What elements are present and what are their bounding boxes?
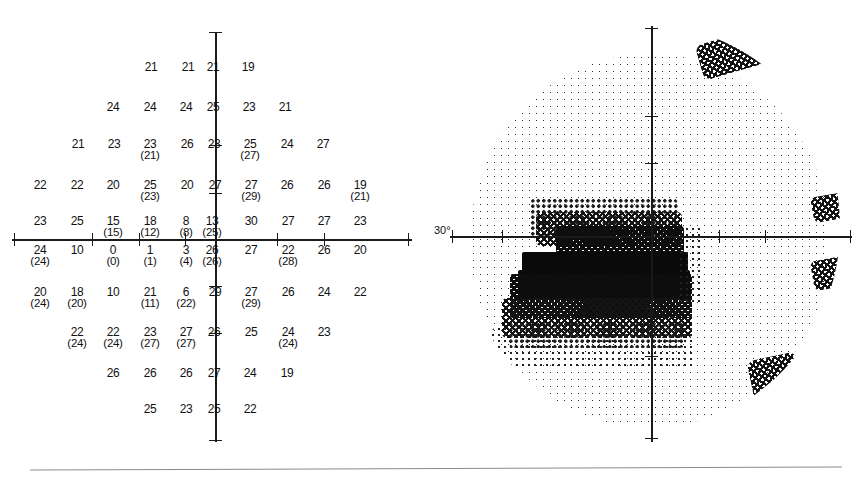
axis-tick [408, 233, 409, 246]
footer-divider [30, 466, 842, 470]
threshold-cell: 23 [339, 216, 381, 227]
threshold-cell: 20 [92, 180, 134, 191]
axis-tick [209, 440, 222, 441]
threshold-value: 27 [302, 139, 344, 150]
threshold-value: 21 [130, 62, 172, 73]
threshold-value: 21 [264, 102, 306, 113]
threshold-cell: 21 [130, 62, 172, 73]
threshold-value: 26 [193, 327, 235, 338]
grayscale-patch [695, 26, 784, 81]
retest-value: (20) [56, 298, 98, 309]
grayscale-patch [490, 326, 696, 368]
retest-value: (26) [191, 256, 233, 267]
grayscale-patch [746, 351, 803, 401]
threshold-cell: 23 [19, 216, 61, 227]
grayscale-vertical-axis [651, 26, 653, 442]
axis-tick [452, 230, 453, 243]
threshold-cell: 22 [229, 404, 271, 415]
threshold-cell: 24 [92, 102, 134, 113]
threshold-value: 25 [230, 327, 272, 338]
axis-tick [719, 230, 720, 243]
axis-tick [765, 230, 766, 243]
retest-value: (24) [92, 338, 134, 349]
threshold-cell: 19 [266, 368, 308, 379]
threshold-value: 24 [92, 102, 134, 113]
retest-value: (21) [339, 191, 381, 202]
threshold-cell: 27 [230, 245, 272, 256]
threshold-value: 22 [339, 287, 381, 298]
threshold-value: 20 [92, 180, 134, 191]
threshold-cell: 22 [19, 180, 61, 191]
threshold-value: 19 [266, 368, 308, 379]
threshold-value: 20 [339, 245, 381, 256]
threshold-cell: 25 [230, 327, 272, 338]
threshold-cell: 24(24) [19, 245, 61, 267]
retest-value: (24) [19, 298, 61, 309]
retest-value: (24) [19, 256, 61, 267]
axis-tick [209, 193, 222, 194]
threshold-cell: 22(24) [92, 327, 134, 349]
threshold-cell: 27(29) [230, 287, 272, 309]
degree-axis-label: 30° [434, 224, 451, 236]
retest-value: (29) [230, 191, 272, 202]
threshold-cell: 23(21) [129, 139, 171, 161]
axis-tick [645, 116, 658, 117]
axis-tick [502, 230, 503, 243]
threshold-value: 10 [92, 287, 134, 298]
axis-tick [645, 438, 658, 439]
threshold-value: 30 [230, 216, 272, 227]
axis-tick [14, 233, 15, 246]
threshold-cell: 19 [227, 62, 269, 73]
threshold-cell: 30 [230, 216, 272, 227]
grayscale-deviation-map: 30° [432, 8, 868, 452]
threshold-cell: 13(25) [191, 216, 233, 238]
threshold-cell: 26(26) [191, 245, 233, 267]
grayscale-field-disc [460, 26, 840, 428]
threshold-cell: 20(24) [19, 287, 61, 309]
grayscale-patch [810, 255, 840, 291]
retest-value: (29) [230, 298, 272, 309]
threshold-value: 26 [92, 368, 134, 379]
threshold-value: 23 [339, 216, 381, 227]
threshold-value: 23 [19, 216, 61, 227]
threshold-value: 24 [229, 368, 271, 379]
axis-tick [645, 308, 658, 309]
numeric-threshold-plot: 21212119242424252321212323(21)262325(27)… [0, 0, 430, 450]
axis-tick [548, 230, 549, 243]
threshold-cell: 10 [92, 287, 134, 298]
threshold-cell: 19(21) [339, 180, 381, 202]
threshold-value: 22 [19, 180, 61, 191]
threshold-cell: 26 [193, 327, 235, 338]
threshold-cell: 27 [302, 139, 344, 150]
threshold-value: 26 [266, 180, 308, 191]
axis-tick [850, 230, 851, 243]
retest-value: (25) [191, 227, 233, 238]
retest-value: (27) [229, 150, 271, 161]
threshold-cell: 25(27) [229, 139, 271, 161]
threshold-value: 27 [230, 245, 272, 256]
threshold-cell: 26 [92, 368, 134, 379]
threshold-cell: 0(0) [92, 245, 134, 267]
threshold-cell: 20 [339, 245, 381, 256]
threshold-value: 22 [229, 404, 271, 415]
retest-value: (0) [92, 256, 134, 267]
retest-value: (28) [267, 256, 309, 267]
threshold-cell: 22 [339, 287, 381, 298]
axis-tick [645, 28, 658, 29]
grayscale-patch [556, 226, 684, 254]
axis-tick [645, 163, 658, 164]
threshold-cell: 23 [303, 327, 345, 338]
axis-tick [645, 356, 658, 357]
threshold-cell: 21 [264, 102, 306, 113]
threshold-value: 23 [303, 327, 345, 338]
threshold-cell: 24 [229, 368, 271, 379]
numeric-horizontal-axis [12, 239, 412, 241]
retest-value: (24) [267, 338, 309, 349]
threshold-value: 19 [227, 62, 269, 73]
retest-value: (21) [129, 150, 171, 161]
retest-value: (27) [165, 338, 207, 349]
retest-value: (23) [129, 191, 171, 202]
retest-value: (22) [165, 298, 207, 309]
threshold-cell: 15(15) [92, 216, 134, 238]
axis-tick [209, 32, 222, 33]
